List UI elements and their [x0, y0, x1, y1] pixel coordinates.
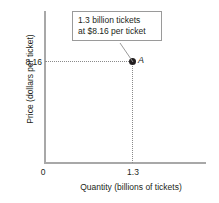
vertical-guide-line [132, 62, 133, 163]
annotation-line-1: 1.3 billion tickets [78, 15, 157, 26]
price-quantity-chart: Price (dollars per ticket) Quantity (bil… [0, 0, 219, 203]
y-axis-line [44, 11, 46, 164]
x-axis-tick-label: 1.3 [121, 167, 145, 177]
annotation-callout-box: 1.3 billion tickets at $8.16 per ticket [72, 11, 162, 41]
x-axis-origin-label: 0 [36, 167, 50, 177]
x-axis-line [44, 162, 206, 164]
annotation-line-2: at $8.16 per ticket [78, 26, 157, 37]
data-point-a [129, 58, 136, 65]
y-axis-title: Price (dollars per ticket) [25, 4, 35, 154]
data-point-a-label: A [138, 55, 144, 65]
y-axis-tick-label: 8.16 [18, 57, 42, 67]
x-axis-title: Quantity (billions of tickets) [46, 182, 216, 192]
horizontal-guide-line [45, 61, 133, 62]
